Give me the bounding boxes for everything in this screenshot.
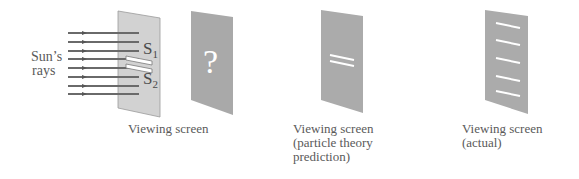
screen-label-actual: Viewing screen (actual) xyxy=(462,122,542,150)
sun-rays-label-line2: rays xyxy=(31,64,62,78)
slit-barrier xyxy=(118,11,160,117)
ray-arrowheads xyxy=(82,31,87,96)
sun-rays-label-line1: Sun’s xyxy=(31,50,62,64)
question-mark: ? xyxy=(203,44,218,80)
diagram-canvas xyxy=(0,0,579,179)
sun-rays-label: Sun’s rays xyxy=(31,50,62,78)
screen-label-particle: Viewing screen (particle theory predicti… xyxy=(293,122,373,164)
slit-s2-label: S2 xyxy=(143,72,158,91)
slit-s1-label: S1 xyxy=(143,42,158,61)
screen-label-unknown: Viewing screen xyxy=(128,122,208,136)
viewing-screen-particle xyxy=(321,10,363,113)
